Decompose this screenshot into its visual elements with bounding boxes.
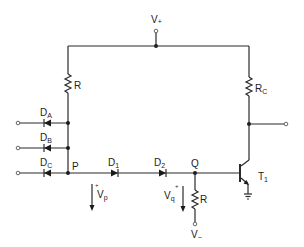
v-plus-label: V+ bbox=[151, 14, 162, 25]
v-minus-label: V− bbox=[191, 229, 202, 241]
vq-label: Vq bbox=[164, 190, 175, 203]
collector-resistor: RC bbox=[246, 46, 267, 124]
diode-a-label: DA bbox=[40, 107, 52, 119]
diode-2-label: D2 bbox=[154, 157, 165, 169]
v-plus-terminal bbox=[154, 29, 158, 33]
node-p-label: P bbox=[72, 161, 79, 172]
diode-2-symbol bbox=[159, 170, 166, 177]
input-b-terminal bbox=[16, 146, 20, 150]
pullup-resistor: R bbox=[65, 46, 81, 173]
diode-b-symbol bbox=[44, 145, 51, 152]
v-minus-terminal bbox=[193, 222, 197, 226]
diode-c-label: DC bbox=[40, 157, 52, 169]
node-q-label: Q bbox=[191, 158, 199, 169]
arrow-down-icon bbox=[181, 206, 186, 212]
diode-c-symbol bbox=[44, 170, 51, 177]
collector-resistor-label: RC bbox=[255, 83, 267, 95]
output-terminal bbox=[284, 122, 288, 126]
dtl-nand-schematic: V+ R DA DB DC P D1 bbox=[0, 0, 304, 247]
output bbox=[247, 122, 288, 126]
base-resistor-label: R bbox=[200, 194, 207, 205]
series-diode-1: D1 bbox=[108, 157, 119, 177]
v-plus-supply: V+ bbox=[151, 14, 162, 48]
base-resistor: R V− bbox=[191, 173, 207, 241]
input-a-terminal bbox=[16, 121, 20, 125]
arrow-down-icon bbox=[90, 205, 95, 211]
diode-a-symbol bbox=[44, 120, 51, 127]
input-c-terminal bbox=[16, 171, 20, 175]
pullup-resistor-label: R bbox=[74, 80, 81, 91]
svg-text:+: + bbox=[175, 183, 179, 189]
series-diode-2: D2 bbox=[154, 157, 166, 177]
vq-voltage-indicator: + Vq bbox=[164, 183, 186, 212]
diode-1-label: D1 bbox=[108, 157, 119, 169]
diode-b-label: DB bbox=[40, 132, 52, 144]
input-diode-c: DC bbox=[16, 157, 68, 177]
vp-voltage-indicator: + Vp bbox=[90, 182, 108, 211]
vp-label: Vp bbox=[97, 189, 108, 202]
transistor-t1: T1 bbox=[240, 124, 268, 199]
input-diode-a: DA bbox=[16, 107, 70, 127]
input-diode-b: DB bbox=[16, 132, 70, 152]
diode-1-symbol bbox=[111, 170, 118, 177]
svg-text:+: + bbox=[95, 182, 99, 188]
transistor-label: T1 bbox=[258, 171, 268, 183]
